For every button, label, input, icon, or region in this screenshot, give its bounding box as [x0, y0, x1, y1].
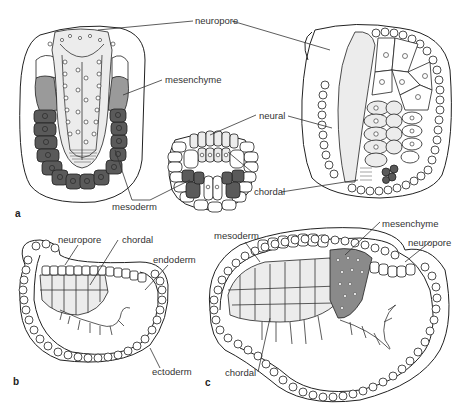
label-a-neuropore: neuropore — [195, 15, 238, 26]
label-c-mesoderm: mesoderm — [214, 230, 259, 241]
label-a-neural: neural — [259, 110, 285, 121]
label-b-neuropore: neuropore — [58, 234, 101, 245]
label-b-endoderm: endoderm — [153, 254, 196, 265]
label-b-ectoderm: ectoderm — [152, 366, 192, 377]
panel-a-dorsal-view — [20, 26, 145, 202]
label-a-mesoderm: mesoderm — [112, 201, 157, 212]
panel-label-a: a — [15, 208, 21, 219]
embryo-figure: neuropore mesenchyme neural chordal meso… — [0, 0, 459, 415]
label-a-mesenchyme: mesenchyme — [165, 74, 222, 85]
label-b-chordal: chordal — [122, 234, 153, 245]
panel-label-b: b — [13, 376, 19, 387]
panel-a-lateral-view — [302, 24, 452, 198]
panel-a-cross-section — [168, 131, 258, 212]
label-c-neuropore: neuropore — [408, 237, 451, 248]
label-c-mesenchyme: mesenchyme — [382, 218, 439, 229]
label-a-chordal: chordal — [254, 186, 285, 197]
panel-b-embryo — [19, 240, 168, 362]
label-c-chordal: chordal — [225, 367, 256, 378]
panel-label-c: c — [205, 377, 211, 388]
